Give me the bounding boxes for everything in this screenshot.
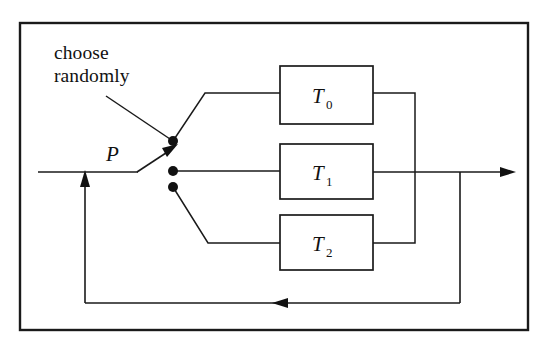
block-t1-label: T — [312, 161, 325, 185]
block-t1[interactable] — [280, 144, 373, 199]
block-t2-label: T — [312, 232, 325, 256]
branch-wire-t2 — [173, 187, 280, 243]
switch-contact-1[interactable] — [168, 166, 178, 176]
annotation-line-1: choose — [54, 42, 109, 63]
feedback-left-arrow-icon — [272, 298, 288, 308]
switch-arm-arrow-icon — [162, 144, 178, 157]
branch-wire-t0 — [173, 93, 280, 141]
block-t0-subscript: 0 — [326, 97, 333, 112]
output-wire-t0 — [373, 93, 415, 172]
block-t2-subscript: 2 — [326, 245, 333, 260]
output-arrow-icon — [500, 167, 516, 177]
block-t2[interactable] — [280, 215, 373, 270]
annotation-line-2: randomly — [54, 65, 130, 86]
annotation-choose-randomly: chooserandomly — [54, 42, 130, 87]
output-wire-t2 — [373, 172, 415, 243]
block-t0-label: T — [312, 84, 325, 108]
figure-canvas: T 0 T 1 T 2 P chooserandomly — [0, 0, 559, 342]
block-t0[interactable] — [280, 66, 373, 124]
switch-contact-2[interactable] — [168, 182, 178, 192]
annotation-leader-line — [106, 96, 170, 139]
input-label-p: P — [105, 142, 119, 166]
switch-contact-0[interactable] — [168, 136, 178, 146]
block-t1-subscript: 1 — [326, 174, 333, 189]
